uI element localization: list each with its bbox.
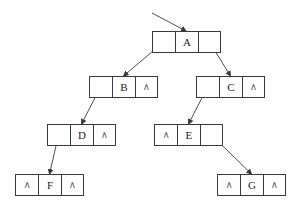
right-pointer-cell: ∧ — [61, 175, 83, 195]
tree-node-a: A — [152, 31, 221, 53]
data-cell: G — [240, 175, 262, 195]
data-cell: A — [175, 32, 197, 52]
data-cell: C — [219, 77, 241, 97]
tree-node-e: ∧E — [154, 124, 223, 146]
tree-node-f: ∧F∧ — [15, 174, 84, 196]
right-pointer-cell — [200, 125, 222, 145]
tree-node-d: D∧ — [47, 124, 116, 146]
left-pointer-cell — [48, 125, 70, 145]
left-pointer-cell — [153, 32, 175, 52]
tree-node-c: C∧ — [196, 76, 265, 98]
right-pointer-cell — [198, 32, 220, 52]
right-pointer-cell: ∧ — [93, 125, 115, 145]
right-pointer-cell: ∧ — [242, 77, 264, 97]
left-pointer-cell — [90, 77, 112, 97]
data-cell: E — [177, 125, 199, 145]
left-pointer-cell — [197, 77, 219, 97]
tree-node-b: B∧ — [89, 76, 158, 98]
right-pointer-cell: ∧ — [135, 77, 157, 97]
data-cell: D — [70, 125, 92, 145]
data-cell: F — [38, 175, 60, 195]
right-pointer-cell: ∧ — [263, 175, 285, 195]
left-pointer-cell: ∧ — [155, 125, 177, 145]
tree-node-g: ∧G∧ — [217, 174, 286, 196]
left-pointer-cell: ∧ — [218, 175, 240, 195]
root-pointer-arrow — [152, 13, 186, 31]
left-pointer-cell: ∧ — [16, 175, 38, 195]
data-cell: B — [112, 77, 134, 97]
